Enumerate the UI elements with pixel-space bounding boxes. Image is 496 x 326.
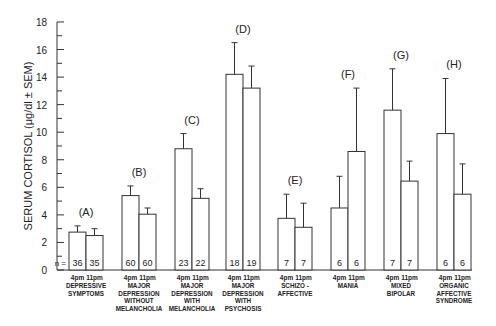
time-label: 4pm bbox=[71, 274, 85, 282]
n-value: 19 bbox=[246, 258, 256, 268]
n-value: 35 bbox=[89, 258, 99, 268]
n-value: 60 bbox=[125, 258, 135, 268]
group-label: DEPRESSION bbox=[118, 290, 160, 297]
time-label: 4pm bbox=[439, 274, 453, 282]
n-value: 7 bbox=[301, 258, 306, 268]
group-label: MAJOR bbox=[181, 282, 204, 289]
group-label: WITH bbox=[184, 297, 201, 304]
group-label: ORGANIC bbox=[439, 282, 469, 289]
bar-4pm bbox=[384, 110, 401, 270]
time-label: 11pm bbox=[86, 274, 103, 282]
time-label: 11pm bbox=[192, 274, 209, 282]
bar-11pm bbox=[348, 151, 365, 270]
y-tick-label: 6 bbox=[41, 182, 47, 193]
y-tick-label: 14 bbox=[36, 72, 48, 83]
group-label: MAJOR bbox=[128, 282, 151, 289]
bar-4pm bbox=[226, 74, 243, 270]
n-value: 7 bbox=[407, 258, 412, 268]
time-label: 4pm bbox=[228, 274, 242, 282]
y-tick-label: 8 bbox=[41, 155, 47, 166]
time-label: 11pm bbox=[243, 274, 260, 282]
group-letter: (D) bbox=[235, 23, 250, 35]
y-tick-label: 18 bbox=[36, 17, 48, 28]
n-label: n = bbox=[55, 259, 67, 268]
group-label: MELANCHOLIA bbox=[169, 305, 216, 312]
n-value: 36 bbox=[72, 258, 82, 268]
bar-chart: 024681012141618SERUM CORTISOL (μg/dl ± S… bbox=[0, 0, 496, 326]
group-letter: (B) bbox=[132, 166, 147, 178]
group-label: MANIA bbox=[338, 282, 359, 289]
group-label: AFFECTIVE bbox=[437, 290, 472, 297]
n-value: 23 bbox=[178, 258, 188, 268]
time-label: 4pm bbox=[333, 274, 347, 282]
time-label: 4pm bbox=[177, 274, 191, 282]
group-label: MIXED bbox=[391, 282, 411, 289]
group-label: BIPOLAR bbox=[387, 290, 416, 297]
bar-4pm bbox=[437, 134, 454, 270]
group-label: DEPRESSION bbox=[171, 290, 213, 297]
group-letter: (H) bbox=[446, 58, 461, 70]
group-label: PSYCHOSIS bbox=[225, 305, 262, 312]
y-axis-label: SERUM CORTISOL (μg/dl ± SEM) bbox=[22, 62, 34, 231]
group-label: MAJOR bbox=[232, 282, 255, 289]
n-value: 7 bbox=[390, 258, 395, 268]
group-letter: (A) bbox=[79, 206, 94, 218]
bar-11pm bbox=[401, 181, 418, 270]
n-value: 6 bbox=[354, 258, 359, 268]
n-value: 18 bbox=[229, 258, 239, 268]
group-label: WITH bbox=[235, 297, 252, 304]
group-letter: (C) bbox=[184, 114, 199, 126]
group-label: MELANCHOLIA bbox=[116, 305, 163, 312]
time-label: 4pm bbox=[280, 274, 294, 282]
time-label: 11pm bbox=[139, 274, 156, 282]
n-value: 7 bbox=[284, 258, 289, 268]
time-label: 11pm bbox=[454, 274, 471, 282]
group-label: SCHIZO - bbox=[281, 282, 309, 289]
y-tick-label: 10 bbox=[36, 127, 48, 138]
time-label: 11pm bbox=[401, 274, 418, 282]
group-label: WITHOUT bbox=[124, 297, 154, 304]
y-tick-label: 2 bbox=[41, 237, 47, 248]
group-label: DEPRESSIVE bbox=[66, 282, 106, 289]
group-letter: (E) bbox=[288, 174, 303, 186]
n-value: 6 bbox=[460, 258, 465, 268]
group-letter: (G) bbox=[393, 49, 409, 61]
group-label: DEPRESSION bbox=[222, 290, 264, 297]
time-label: 11pm bbox=[295, 274, 312, 282]
group-label: SYNDROME bbox=[436, 297, 472, 304]
group-label: SYMPTOMS bbox=[68, 290, 104, 297]
time-label: 4pm bbox=[124, 274, 138, 282]
time-label: 4pm bbox=[386, 274, 400, 282]
n-value: 22 bbox=[195, 258, 205, 268]
bar-4pm bbox=[175, 149, 192, 270]
y-tick-label: 12 bbox=[36, 100, 48, 111]
bar-11pm bbox=[243, 88, 260, 270]
time-label: 11pm bbox=[348, 274, 365, 282]
n-value: 6 bbox=[337, 258, 342, 268]
y-tick-label: 16 bbox=[36, 45, 48, 56]
n-value: 60 bbox=[142, 258, 152, 268]
y-tick-label: 0 bbox=[41, 265, 47, 276]
n-value: 6 bbox=[443, 258, 448, 268]
y-tick-label: 4 bbox=[41, 210, 47, 221]
chart-figure: 024681012141618SERUM CORTISOL (μg/dl ± S… bbox=[0, 0, 496, 326]
group-letter: (F) bbox=[341, 68, 355, 80]
group-label: AFFECTIVE bbox=[278, 290, 313, 297]
